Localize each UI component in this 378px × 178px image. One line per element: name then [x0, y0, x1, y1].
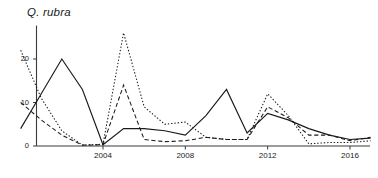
data-line-solid	[21, 59, 371, 145]
data-line-dotted	[21, 33, 371, 145]
y-axis-tick-label: 20	[11, 54, 29, 63]
x-axis-tick-label: 2004	[83, 151, 123, 160]
x-axis-tick-label: 2016	[330, 151, 370, 160]
x-axis-tick-label: 2012	[248, 151, 288, 160]
x-axis-tick-label: 2008	[165, 151, 205, 160]
axis-group	[33, 26, 370, 150]
y-axis-tick-label: 10	[11, 98, 29, 107]
data-line-dashed	[21, 85, 371, 145]
y-axis-tick-label: 0	[11, 141, 29, 150]
chart-figure: Q. rubra 01020 2004200820122016	[0, 0, 378, 178]
series-group	[21, 33, 371, 145]
